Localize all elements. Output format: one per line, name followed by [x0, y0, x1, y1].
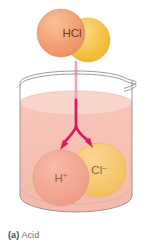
figure-caption: (a) Acid: [8, 230, 39, 241]
caption-label: (a): [8, 230, 19, 240]
hydrogen-chloride-molecule: HCl: [37, 9, 110, 62]
acid-diagram: Cl– H+: [0, 0, 152, 250]
caption-text: Acid: [21, 230, 39, 240]
hcl-label: HCl: [62, 27, 81, 39]
acid-dissociation-figure: Cl– H+: [0, 0, 152, 250]
beaker-rim-back: [20, 71, 136, 91]
